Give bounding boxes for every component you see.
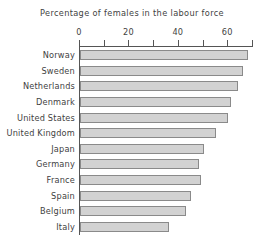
bar-row: Germany [0,157,264,173]
x-axis-tick-label: 40 [172,27,183,37]
bar [80,97,231,107]
category-label: Italy [56,222,75,232]
category-label: United States [17,113,75,123]
x-axis-tick-label: 20 [123,27,134,37]
bar-row: Netherlands [0,79,264,95]
category-label: Spain [51,191,75,201]
category-label: Netherlands [23,81,75,91]
bar [80,144,204,154]
bar-row: France [0,172,264,188]
x-axis-tick-labels: 0204060 [0,27,264,39]
bar [80,159,199,169]
bar-row: Sweden [0,63,264,79]
x-axis-tick-label: 0 [76,27,81,37]
category-label: Norway [43,50,75,60]
bar [80,66,243,76]
bar-row: Norway [0,48,264,64]
bar-chart: Percentage of females in the labour forc… [0,0,264,241]
category-label: United Kingdom [6,128,75,138]
bar [80,128,216,138]
category-label: Denmark [36,97,75,107]
bar [80,50,248,60]
bar-row: Spain [0,188,264,204]
category-label: France [47,175,75,185]
bar-row: Denmark [0,94,264,110]
bar [80,191,191,201]
bar [80,113,228,123]
bar-row: United Kingdom [0,126,264,142]
x-axis-tick-label: 60 [222,27,233,37]
bar [80,175,201,185]
bar [80,206,186,216]
chart-title: Percentage of females in the labour forc… [0,8,264,18]
bar-row: United States [0,110,264,126]
category-label: Germany [36,159,75,169]
bar-row: Italy [0,219,264,235]
bar-row: Belgium [0,204,264,220]
category-label: Sweden [41,66,75,76]
category-label: Belgium [40,206,75,216]
bar [80,222,169,232]
bar-row: Japan [0,141,264,157]
bar [80,81,238,91]
category-label: Japan [51,144,75,154]
